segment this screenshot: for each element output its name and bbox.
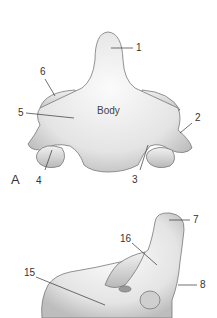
panel-label-a: A xyxy=(11,173,20,186)
callout-4: 4 xyxy=(36,176,42,186)
callout-15: 15 xyxy=(24,268,35,278)
callout-7: 7 xyxy=(193,215,199,225)
callout-1: 1 xyxy=(136,43,142,53)
callout-6: 6 xyxy=(40,67,46,77)
panel-a-vertebra xyxy=(28,32,192,172)
panel-b-vertebra xyxy=(42,213,184,318)
callout-16: 16 xyxy=(120,234,131,244)
callout-3: 3 xyxy=(132,175,138,185)
callout-2: 2 xyxy=(195,113,201,123)
callout-8: 8 xyxy=(200,280,206,290)
callout-5: 5 xyxy=(18,108,24,118)
body-label: Body xyxy=(97,106,120,116)
